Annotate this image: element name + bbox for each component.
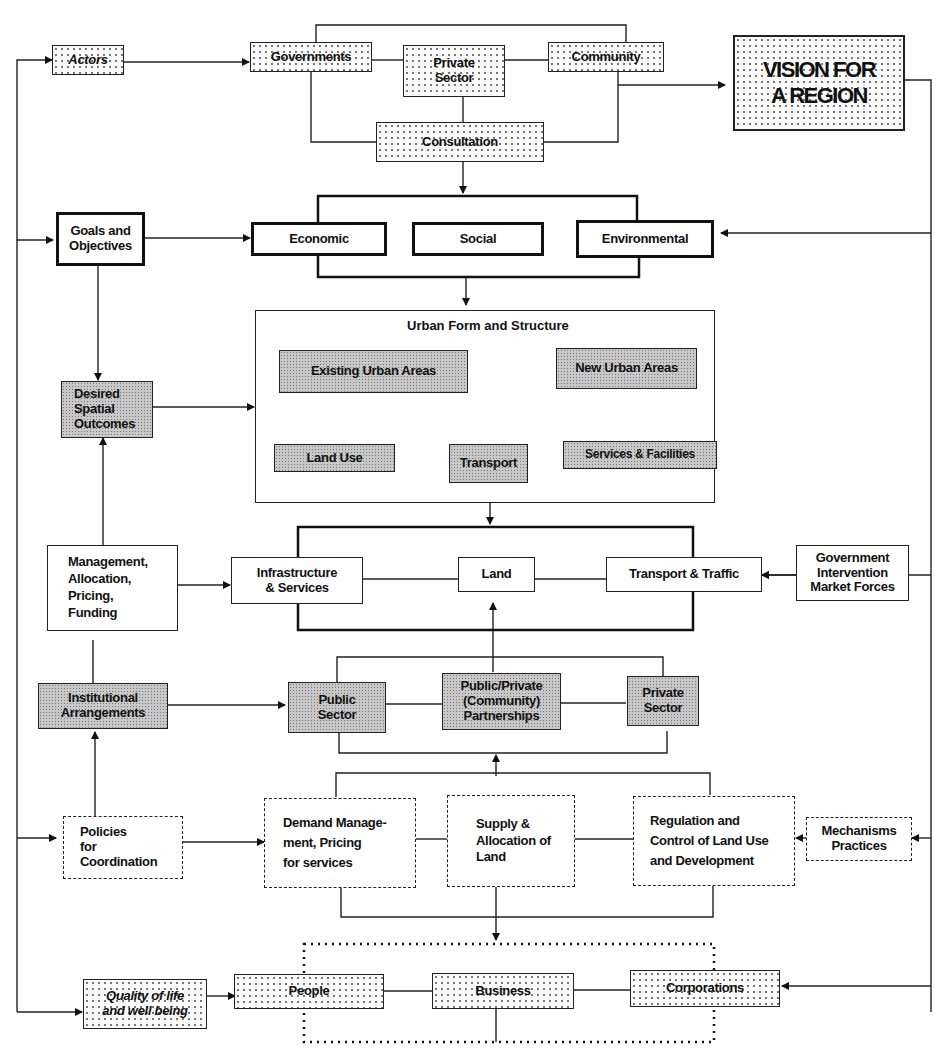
regulation-line-2: Control of Land Use xyxy=(650,831,769,851)
quality-line-1: Quality of life xyxy=(106,989,184,1004)
environmental-box: Environmental xyxy=(576,220,714,258)
goals-line-1: Goals and xyxy=(70,224,130,239)
regulation-line-1: Regulation and xyxy=(650,811,740,831)
community-box: Community xyxy=(548,42,664,72)
existing-urban-areas-box: Existing Urban Areas xyxy=(279,350,468,393)
partnerships-line-3: Partnerships xyxy=(464,709,540,724)
vision-line-1: VISION FOR xyxy=(763,57,875,83)
desired-line-3: Outcomes xyxy=(74,417,135,432)
policies-coordination-box: Policies for Coordination xyxy=(63,816,183,879)
business-label: Business xyxy=(475,984,530,999)
private-sector-mid-line-1: Private xyxy=(642,686,683,701)
management-line-3: Pricing, xyxy=(68,588,113,605)
private-sector-top-label: Private Sector xyxy=(424,56,484,86)
vision-box: VISION FOR A REGION xyxy=(733,35,905,131)
private-sector-top-box: Private Sector xyxy=(403,45,505,97)
environmental-label: Environmental xyxy=(602,232,688,247)
regulation-control-box: Regulation and Control of Land Use and D… xyxy=(633,796,795,886)
business-box: Business xyxy=(432,973,574,1009)
gov-intervention-line-2: Intervention xyxy=(817,566,888,581)
institutional-arrangements-box: Institutional Arrangements xyxy=(38,683,168,729)
demand-line-1: Demand Manage- xyxy=(283,813,386,833)
land-use-label: Land Use xyxy=(306,451,362,466)
governments-label: Governments xyxy=(271,50,352,65)
economic-label: Economic xyxy=(289,232,349,247)
demand-management-box: Demand Manage- ment, Pricing for service… xyxy=(264,798,416,888)
transport-traffic-box: Transport & Traffic xyxy=(606,557,762,592)
partnerships-line-1: Public/Private xyxy=(461,679,543,694)
new-urban-areas-box: New Urban Areas xyxy=(556,348,697,389)
infrastructure-services-box: Infrastructure & Services xyxy=(231,557,363,604)
management-line-2: Allocation, xyxy=(68,571,131,588)
existing-urban-label: Existing Urban Areas xyxy=(311,364,436,379)
urban-form-title: Urban Form and Structure xyxy=(407,318,569,333)
social-label: Social xyxy=(460,232,497,247)
corporations-box: Corporations xyxy=(630,970,780,1007)
public-sector-line-1: Public xyxy=(318,693,355,708)
public-sector-box: Public Sector xyxy=(288,682,386,733)
people-label: People xyxy=(289,984,330,999)
demand-line-3: for services xyxy=(283,853,352,873)
infrastructure-line-1: Infrastructure xyxy=(257,566,337,581)
public-sector-line-2: Sector xyxy=(318,708,357,723)
transport-inner-box: Transport xyxy=(449,444,528,483)
institutional-line-1: Institutional xyxy=(68,691,138,706)
policies-line-3: Coordination xyxy=(80,855,157,870)
actors-box: Actors xyxy=(52,45,124,75)
desired-line-2: Spatial xyxy=(74,402,115,417)
community-label: Community xyxy=(572,50,641,65)
private-sector-mid-line-2: Sector xyxy=(644,701,683,716)
policies-line-2: for xyxy=(80,840,96,855)
policies-line-1: Policies xyxy=(80,825,127,840)
partnerships-box: Public/Private (Community) Partnerships xyxy=(442,673,561,730)
transport-traffic-label: Transport & Traffic xyxy=(629,567,739,582)
mechanisms-line-1: Mechanisms xyxy=(821,824,896,839)
gov-intervention-line-3: Market Forces xyxy=(810,580,894,595)
vision-line-2: A REGION xyxy=(771,83,867,109)
consultation-label: Consultation xyxy=(422,135,498,150)
services-facilities-box: Services & Facilities xyxy=(563,441,717,469)
consultation-box: Consultation xyxy=(376,122,544,162)
people-box: People xyxy=(234,974,384,1009)
regulation-line-3: and Development xyxy=(650,851,754,871)
private-sector-mid-box: Private Sector xyxy=(627,676,699,726)
corporations-label: Corporations xyxy=(666,981,744,996)
new-urban-label: New Urban Areas xyxy=(575,361,678,376)
economic-box: Economic xyxy=(251,222,387,256)
gov-intervention-line-1: Government xyxy=(816,551,890,566)
demand-line-2: ment, Pricing xyxy=(283,833,361,853)
management-line-4: Funding xyxy=(68,605,117,622)
services-facilities-label: Services & Facilities xyxy=(585,448,695,462)
mechanisms-line-2: Practices xyxy=(831,839,886,854)
desired-spatial-outcomes-box: Desired Spatial Outcomes xyxy=(61,381,153,438)
regional-planning-diagram: Actors Governments Private Sector Commun… xyxy=(0,0,947,1059)
social-box: Social xyxy=(412,222,544,256)
transport-inner-label: Transport xyxy=(460,456,517,471)
governments-box: Governments xyxy=(250,42,372,72)
mechanisms-practices-box: Mechanisms Practices xyxy=(806,817,912,861)
land-use-box: Land Use xyxy=(274,444,395,472)
supply-line-3: Land xyxy=(476,849,506,866)
supply-line-1: Supply & xyxy=(476,816,530,833)
goals-objectives-box: Goals and Objectives xyxy=(56,212,145,266)
goals-line-2: Objectives xyxy=(69,239,132,254)
partnerships-line-2: (Community) xyxy=(463,694,540,709)
supply-line-2: Allocation of xyxy=(476,833,551,850)
quality-line-2: and well being xyxy=(102,1004,187,1019)
land-box: Land xyxy=(458,557,535,592)
land-label: Land xyxy=(482,567,512,582)
infrastructure-line-2: & Services xyxy=(265,581,329,596)
quality-of-life-box: Quality of life and well being xyxy=(83,979,207,1029)
management-line-1: Management, xyxy=(68,554,148,571)
actors-label: Actors xyxy=(68,53,107,68)
management-box: Management, Allocation, Pricing, Funding xyxy=(47,545,178,631)
government-intervention-box: Government Intervention Market Forces xyxy=(796,545,909,601)
institutional-line-2: Arrangements xyxy=(61,706,146,721)
desired-line-1: Desired xyxy=(74,387,120,402)
supply-allocation-box: Supply & Allocation of Land xyxy=(447,795,575,887)
